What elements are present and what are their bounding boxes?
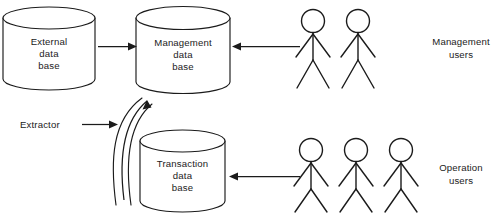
management-users-label-line2: users (449, 49, 473, 60)
stick-figure-leg-right (358, 60, 374, 88)
management-users-label-line1: Management (432, 36, 490, 47)
external-database-label-line1: External (31, 36, 67, 47)
stick-figure-icon (341, 10, 375, 89)
extractor-flow-outer-curve (113, 98, 142, 205)
stick-figure-icon (384, 139, 418, 213)
transaction-database-label-line2: data (173, 170, 193, 181)
stick-figure-head (390, 139, 413, 162)
stick-figure-icon (294, 139, 328, 213)
architecture-diagram: External data base Management data base (0, 0, 499, 213)
stick-figure-arm-right (358, 34, 375, 57)
operation-users-label-line1: Operation (439, 162, 482, 173)
stick-figure-icon (339, 139, 373, 213)
stick-figure-head (347, 10, 370, 33)
stick-figure-leg-right (401, 189, 417, 212)
management-users-figures (296, 10, 375, 89)
stick-figure-arm-right (401, 163, 418, 186)
management-database-label-line3: base (172, 61, 193, 72)
diagram-canvas: External data base Management data base (0, 0, 499, 213)
arrow-operation-users-head (229, 173, 238, 181)
transaction-database-top (140, 130, 225, 152)
transaction-database-label-line1: Transaction (157, 158, 208, 169)
extractor-annotation: Extractor (20, 119, 118, 130)
arrow-management-users-head (232, 43, 241, 51)
stick-figure-arm-left (296, 34, 313, 57)
stick-figure-head (300, 139, 323, 162)
stick-figure-leg-right (311, 189, 327, 212)
stick-figure-arm-left (341, 34, 358, 57)
transaction-database-cylinder: Transaction data base (140, 130, 225, 212)
operation-users-label-group: Operation users (439, 162, 482, 186)
management-database-cylinder: Management data base (136, 7, 230, 94)
stick-figure-head (302, 10, 325, 33)
external-database-label-line2: data (39, 48, 59, 59)
arrow-external-to-management (98, 43, 137, 51)
stick-figure-leg-left (340, 189, 356, 212)
external-database-label-line3: base (38, 60, 59, 71)
stick-figure-arm-left (294, 163, 311, 186)
stick-figure-icon (296, 10, 330, 89)
arrow-management-users-to-database (232, 43, 300, 51)
stick-figure-arm-right (311, 163, 328, 186)
stick-figure-leg-left (342, 60, 358, 88)
management-database-label-line1: Management (154, 37, 212, 48)
stick-figure-leg-right (313, 60, 329, 88)
stick-figure-leg-left (297, 60, 313, 88)
external-database-top (3, 7, 95, 29)
stick-figure-arm-right (356, 163, 373, 186)
transaction-database-label-line3: base (172, 182, 193, 193)
management-database-label-line2: data (173, 49, 193, 60)
management-users-label-group: Management users (432, 36, 490, 60)
management-database-top (136, 7, 230, 30)
external-database-cylinder: External data base (3, 7, 95, 90)
stick-figure-leg-left (295, 189, 311, 212)
stick-figure-arm-left (339, 163, 356, 186)
extractor-label: Extractor (20, 119, 60, 130)
extractor-pointer-head (109, 121, 118, 129)
stick-figure-head (345, 139, 368, 162)
stick-figure-leg-left (385, 189, 401, 212)
arrow-operation-users-to-database (229, 173, 300, 181)
operation-users-figures (294, 139, 418, 213)
extractor-flow-arrowhead (143, 100, 152, 110)
stick-figure-arm-right (313, 34, 330, 57)
stick-figure-arm-left (384, 163, 401, 186)
operation-users-label-line2: users (449, 175, 473, 186)
stick-figure-leg-right (356, 189, 372, 212)
